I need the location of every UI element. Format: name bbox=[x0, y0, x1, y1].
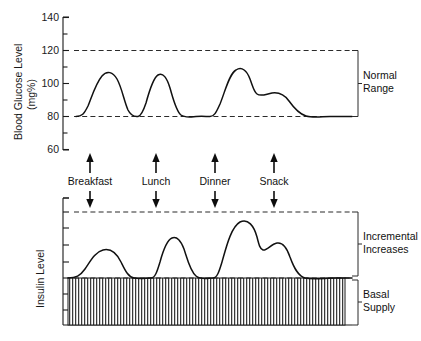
arrow-up-icon-head bbox=[211, 153, 218, 162]
arrow-down-icon-head bbox=[152, 199, 159, 208]
normal-range-label-line1: Normal bbox=[363, 69, 397, 81]
glucose-tick-label-100: 100 bbox=[41, 77, 59, 89]
bottom-chart-group: Insulin Level Incremental Increases Basa… bbox=[34, 198, 418, 325]
basal-supply-bracket bbox=[352, 280, 358, 325]
basal-supply-label-line2: Supply bbox=[363, 301, 396, 313]
insulin-curve bbox=[68, 221, 352, 279]
incremental-increases-label-line2: Increases bbox=[363, 243, 409, 255]
glucose-curve bbox=[76, 69, 352, 117]
arrow-up-icon-head bbox=[270, 153, 277, 162]
glucose-tick-label-80: 80 bbox=[47, 110, 59, 122]
arrow-down-icon-head bbox=[211, 199, 218, 208]
glucose-axis-title: Blood Glucose Level bbox=[12, 44, 24, 140]
meal-label-dinner: Dinner bbox=[200, 175, 231, 187]
meal-marker-breakfast: Breakfast bbox=[68, 153, 112, 208]
glucose-tick-label-140: 140 bbox=[41, 11, 59, 23]
arrow-down-icon-head bbox=[86, 199, 93, 208]
glucose-tick-label-60: 60 bbox=[47, 143, 59, 155]
basal-supply-region bbox=[68, 278, 345, 325]
normal-range-label-line2: Range bbox=[363, 82, 394, 94]
arrow-down-icon-head bbox=[270, 199, 277, 208]
meal-markers-group: Breakfast Lunch Dinner bbox=[68, 153, 290, 208]
glucose-axis-units: (mg%) bbox=[25, 79, 37, 110]
meal-marker-dinner: Dinner bbox=[200, 153, 231, 208]
meal-label-snack: Snack bbox=[259, 175, 289, 187]
meal-marker-snack: Snack bbox=[259, 153, 289, 208]
meal-label-breakfast: Breakfast bbox=[68, 175, 112, 187]
arrow-up-icon-head bbox=[86, 153, 93, 162]
meal-label-lunch: Lunch bbox=[142, 175, 171, 187]
diagram-svg: 140 120 100 80 60 Blood Glucose Level (m… bbox=[0, 0, 421, 341]
basal-supply-label-line1: Basal bbox=[363, 288, 389, 300]
arrow-up-icon-head bbox=[152, 153, 159, 162]
insulin-axis-title: Insulin Level bbox=[34, 250, 46, 308]
incremental-increases-bracket bbox=[352, 212, 358, 276]
incremental-increases-label-line1: Incremental bbox=[363, 230, 418, 242]
glucose-tick-label-120: 120 bbox=[41, 44, 59, 56]
normal-range-bracket bbox=[352, 51, 358, 117]
figure-container: 140 120 100 80 60 Blood Glucose Level (m… bbox=[0, 0, 421, 341]
top-chart-group: 140 120 100 80 60 Blood Glucose Level (m… bbox=[12, 11, 397, 155]
meal-marker-lunch: Lunch bbox=[142, 153, 171, 208]
